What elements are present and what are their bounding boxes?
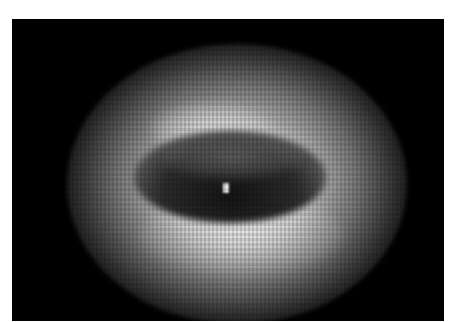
image-panel xyxy=(12,19,444,321)
pixel-noise-overlay xyxy=(12,19,444,321)
